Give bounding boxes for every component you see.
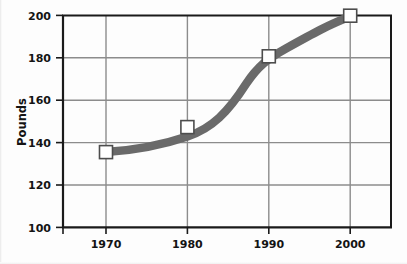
ytick-label-160: 160 (28, 94, 51, 107)
data-point-1970[interactable] (100, 146, 113, 159)
data-point-1980[interactable] (181, 121, 194, 134)
y-axis-tick-labels: 200 180 160 140 120 100 (28, 10, 51, 235)
plot-frame (62, 15, 392, 227)
horizontal-gridlines (62, 58, 392, 185)
ytick-label-120: 120 (28, 179, 51, 192)
x-axis-tick-labels: 1970 1980 1990 2000 (91, 238, 366, 251)
line-chart-plot: 200 180 160 140 120 100 1970 1980 1990 2… (0, 0, 407, 264)
ytick-label-180: 180 (28, 52, 51, 65)
xtick-label-1990: 1990 (253, 238, 284, 251)
xtick-label-1980: 1980 (172, 238, 203, 251)
vertical-gridlines (106, 15, 350, 227)
data-point-2000[interactable] (344, 9, 357, 22)
y-axis-title: Pounds (15, 98, 29, 146)
ytick-label-100: 100 (28, 222, 51, 235)
data-series-line (106, 17, 350, 153)
data-point-1990[interactable] (262, 50, 275, 63)
chart-container: 200 180 160 140 120 100 1970 1980 1990 2… (0, 0, 407, 264)
xtick-label-1970: 1970 (91, 238, 122, 251)
xtick-label-2000: 2000 (335, 238, 366, 251)
ytick-label-140: 140 (28, 137, 51, 150)
ytick-label-200: 200 (28, 10, 51, 23)
